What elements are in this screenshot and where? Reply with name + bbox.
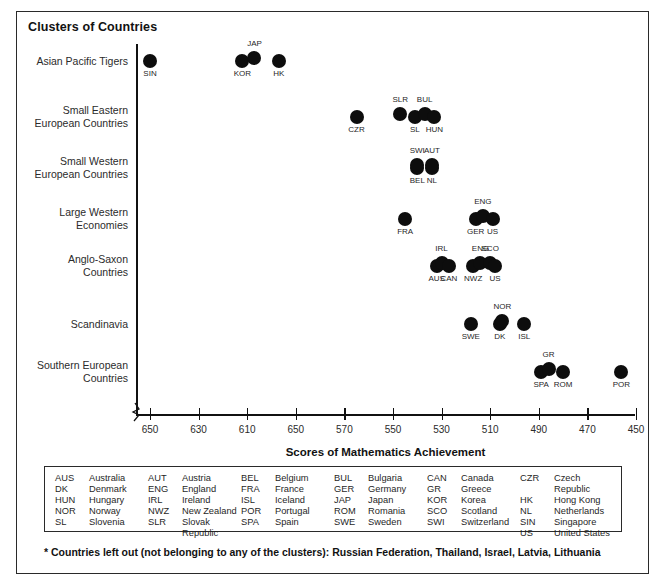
legend-country-code: SCO xyxy=(427,506,461,517)
x-tick-label: 470 xyxy=(567,424,607,435)
legend-row: SWISwitzerland xyxy=(427,517,520,528)
x-tick-label: 530 xyxy=(422,424,462,435)
legend-country-code: HUN xyxy=(55,495,89,506)
category-label-6: Southern European Countries xyxy=(10,359,128,384)
y-axis-line xyxy=(136,44,138,415)
legend-country-name: England xyxy=(182,484,241,495)
data-point-label: AUT xyxy=(409,146,455,155)
legend-country-code: SWI xyxy=(427,517,461,528)
legend-country-name: Slovenia xyxy=(89,517,148,528)
data-point-label: US xyxy=(470,227,516,236)
legend-country-code: NL xyxy=(520,506,554,517)
legend-row: SLRSlovak Republic xyxy=(148,517,241,539)
legend-row: SPASpain xyxy=(241,517,334,528)
legend-country-name: Korea xyxy=(461,495,520,506)
data-point xyxy=(410,158,424,172)
legend-row: ENGEngland xyxy=(148,484,241,495)
legend-row: NWZNew Zealand xyxy=(148,506,241,517)
legend-country-name: Japan xyxy=(368,495,427,506)
category-label-2: Small Western European Countries xyxy=(10,155,128,180)
legend-country-name: Netherlands xyxy=(554,506,613,517)
footnote: * Countries left out (not belonging to a… xyxy=(44,546,634,558)
legend-country-code: IRL xyxy=(148,495,182,506)
legend-row: GRGreece xyxy=(427,484,520,495)
legend-country-name: Denmark xyxy=(89,484,148,495)
chart-figure: Clusters of Countries Asian Pacific Tige… xyxy=(0,0,665,585)
data-point-label: ROM xyxy=(540,380,586,389)
legend-country-name: Ireland xyxy=(182,495,241,506)
legend-country-name: Greece xyxy=(461,484,520,495)
data-point xyxy=(486,212,500,226)
legend-country-name: United States xyxy=(554,528,613,539)
x-tick-label: 610 xyxy=(227,424,267,435)
x-tick-mark xyxy=(442,408,443,420)
data-point xyxy=(247,51,261,65)
x-tick-label: 650 xyxy=(130,424,170,435)
data-point-label: ISL xyxy=(501,332,547,341)
legend-country-name: Spain xyxy=(275,517,334,528)
legend-column-2: BELBelgiumFRAFranceISLIcelandPORPortugal… xyxy=(241,473,334,525)
category-label-5: Scandinavia xyxy=(10,318,128,331)
x-tick-mark xyxy=(490,408,491,420)
legend-country-name: Scotland xyxy=(461,506,520,517)
legend-country-name: Romania xyxy=(368,506,427,517)
x-tick-label: 510 xyxy=(470,424,510,435)
legend-country-code: AUS xyxy=(55,473,89,484)
legend-country-code: US xyxy=(520,528,554,539)
legend-row: SCOScotland xyxy=(427,506,520,517)
legend-row: FRAFrance xyxy=(241,484,334,495)
legend-country-code: BUL xyxy=(334,473,368,484)
legend-country-name: France xyxy=(275,484,334,495)
x-tick-mark xyxy=(296,408,297,420)
category-label-4: Anglo-Saxon Countries xyxy=(10,253,128,278)
data-point xyxy=(143,54,157,68)
legend-country-code: SLR xyxy=(148,517,182,539)
x-axis-line xyxy=(136,414,635,416)
data-point-label: ENG xyxy=(460,197,506,206)
legend-column-1: AUTAustriaENGEnglandIRLIrelandNWZNew Zea… xyxy=(148,473,241,525)
legend-row: BULBulgaria xyxy=(334,473,427,484)
legend-row: PORPortugal xyxy=(241,506,334,517)
legend-row: ISLIceland xyxy=(241,495,334,506)
legend-column-0: AUSAustraliaDKDenmarkHUNHungaryNORNorway… xyxy=(55,473,148,525)
data-point xyxy=(464,317,478,331)
legend-country-code: SPA xyxy=(241,517,275,528)
legend-country-name: New Zealand xyxy=(182,506,241,517)
legend-country-code: NWZ xyxy=(148,506,182,517)
data-point-label: NOR xyxy=(479,302,525,311)
legend-country-name: Hong Kong xyxy=(554,495,613,506)
legend-row: GERGermany xyxy=(334,484,427,495)
legend-row: SLSlovenia xyxy=(55,517,148,528)
legend-row: AUSAustralia xyxy=(55,473,148,484)
legend-country-name: Iceland xyxy=(275,495,334,506)
legend-country-code: ISL xyxy=(241,495,275,506)
legend-country-code: JAP xyxy=(334,495,368,506)
legend-country-name: Singapore xyxy=(554,517,613,528)
legend-country-name: Portugal xyxy=(275,506,334,517)
x-tick-mark xyxy=(636,408,637,420)
legend-row: NORNorway xyxy=(55,506,148,517)
legend-row: HKHong Kong xyxy=(520,495,613,506)
data-point xyxy=(488,259,502,273)
data-point-label: POR xyxy=(598,380,644,389)
x-tick-label: 550 xyxy=(373,424,413,435)
legend-country-name: Sweden xyxy=(368,517,427,528)
data-point-label: SCO xyxy=(467,244,513,253)
x-tick-label: 450 xyxy=(616,424,656,435)
data-point xyxy=(272,54,286,68)
legend-row: USUnited States xyxy=(520,528,613,539)
x-tick-mark xyxy=(587,408,588,420)
legend-row: CZRCzech Republic xyxy=(520,473,613,495)
data-point xyxy=(427,110,441,124)
data-point xyxy=(398,212,412,226)
legend-row: ROMRomania xyxy=(334,506,427,517)
x-tick-mark xyxy=(344,408,345,420)
legend-country-code: CAN xyxy=(427,473,461,484)
data-point-label: CZR xyxy=(334,125,380,134)
data-point xyxy=(393,107,407,121)
legend-country-code: GER xyxy=(334,484,368,495)
legend-country-code: KOR xyxy=(427,495,461,506)
x-tick-mark xyxy=(150,408,151,420)
country-code-legend: AUSAustraliaDKDenmarkHUNHungaryNORNorway… xyxy=(44,466,622,532)
category-label-1: Small Eastern European Countries xyxy=(10,104,128,129)
